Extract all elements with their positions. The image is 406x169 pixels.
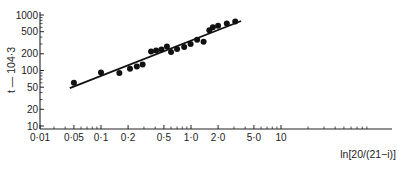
data-point [98,70,104,76]
regression-line [70,21,241,88]
x-tick-label: 5·0 [247,132,262,143]
x-tick-label: 0·2 [121,132,136,143]
data-point [215,23,221,29]
x-axis-title: ln[20/(21−i)] [340,148,396,160]
axes [40,12,392,129]
data-point [168,49,174,55]
chart: 1020501002005001000 0·010·050·10·20·51·0… [0,0,406,169]
y-tick-label: 10 [27,121,39,132]
x-tick-label: 10 [275,132,287,143]
x-tick-label: 1·0 [184,132,199,143]
y-axis-title: t — 104·3 [5,47,17,93]
fitted-line [70,21,241,88]
data-point [148,48,154,54]
x-tick-label: 0·1 [94,132,109,143]
y-tick-label: 50 [27,82,39,93]
data-point [174,46,180,52]
x-ticks: 0·010·050·10·20·51·02·05·010 [30,125,367,143]
data-point [201,39,207,45]
data-point [181,44,187,50]
x-tick-label: 0·01 [30,132,50,143]
data-points [71,19,238,86]
data-point [188,41,194,47]
data-point [210,24,216,30]
x-tick-label: 0·5 [157,132,172,143]
data-point [71,80,77,86]
data-point [134,64,140,70]
data-point [158,46,164,52]
y-tick-label: 200 [21,48,38,59]
y-tick-label: 500 [21,26,38,37]
data-point [224,21,230,27]
data-point [232,19,238,25]
data-point [127,66,133,72]
x-tick-label: 0·05 [64,132,84,143]
data-point [153,47,159,53]
data-point [194,37,200,43]
data-point [116,70,122,76]
y-tick-label: 20 [27,104,39,115]
y-tick-label: 1000 [16,10,39,21]
data-point [164,44,170,50]
y-tick-label: 100 [21,65,38,76]
x-tick-label: 2·0 [211,132,226,143]
data-point [140,62,146,68]
